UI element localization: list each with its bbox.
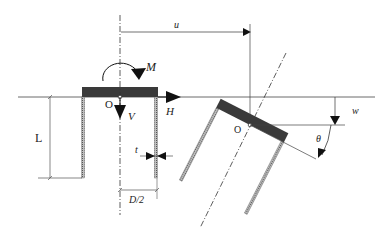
thickness-label: t bbox=[135, 144, 138, 155]
displaced-centre-axis bbox=[200, 53, 286, 228]
origin-label-initial: O bbox=[105, 98, 113, 110]
moment-label: M bbox=[145, 60, 157, 74]
displaced-caisson-lid bbox=[216, 99, 288, 142]
half-diameter-label: D/2 bbox=[128, 194, 144, 205]
horizontal-displacement-label: u bbox=[174, 19, 179, 30]
vertical-displacement-label: w bbox=[352, 105, 359, 116]
right-skirt bbox=[155, 97, 158, 178]
displaced-right-skirt bbox=[244, 141, 283, 215]
moment-arrowhead-icon bbox=[131, 68, 146, 80]
rotation-label: θ bbox=[316, 133, 321, 144]
rotation-reference-line bbox=[250, 125, 316, 159]
caisson-diagram: O M V H L t D/2 u O w bbox=[0, 0, 389, 240]
vertical-load-arrowhead-icon bbox=[114, 105, 126, 119]
vertical-displacement-arrowhead-icon bbox=[330, 116, 340, 125]
thickness-arrow-left-icon bbox=[146, 152, 155, 160]
displaced-caisson bbox=[179, 99, 288, 215]
horizontal-load-label: H bbox=[165, 105, 175, 117]
vertical-load-label: V bbox=[128, 110, 136, 122]
thickness-arrow-right-icon bbox=[157, 152, 166, 160]
length-label: L bbox=[35, 131, 42, 145]
displaced-left-skirt bbox=[179, 108, 218, 182]
horizontal-load-arrowhead-icon bbox=[166, 91, 181, 103]
origin-label-displaced: O bbox=[234, 124, 241, 135]
left-skirt bbox=[82, 97, 85, 178]
